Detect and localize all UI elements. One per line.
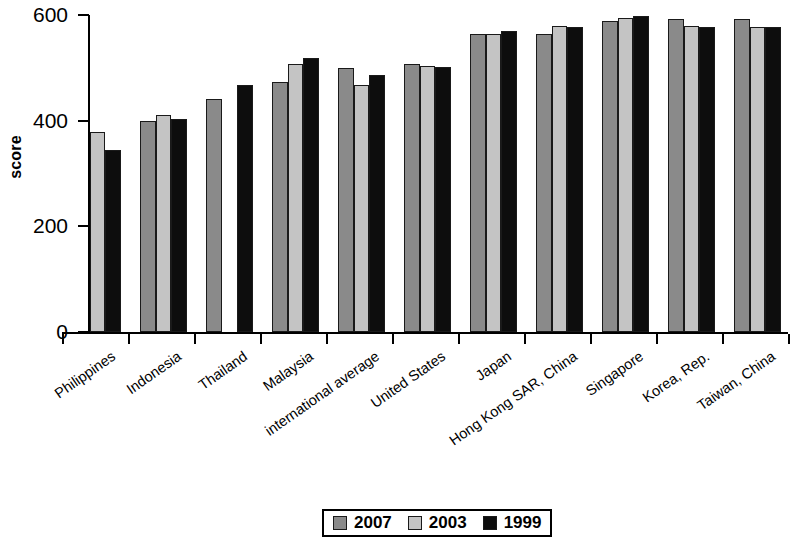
legend-label-2003: 2003 [429, 514, 467, 531]
bar-2003-philippines [90, 132, 106, 332]
bar-1999-indonesia [171, 119, 187, 332]
bar-1999-singapore [633, 16, 649, 332]
x-tick-mark [62, 334, 64, 344]
x-tick-mark [260, 334, 262, 344]
x-tick-mark [194, 334, 196, 344]
x-tick-mark [326, 334, 328, 344]
bar-1999-japan [501, 31, 517, 332]
bar-1999-malaysia [303, 58, 319, 332]
x-tick-mark [590, 334, 592, 344]
legend-swatch-2003 [408, 516, 422, 530]
legend-item-1999: 1999 [483, 514, 542, 531]
legend-swatch-2007 [333, 516, 347, 530]
plot-area [0, 0, 800, 334]
bar-1999-korea-rep [699, 27, 715, 332]
bar-1999-philippines [105, 150, 121, 332]
bar-2007-taiwan-china [734, 19, 750, 332]
bar-2003-japan [486, 34, 502, 333]
chart-legend: 200720031999 [322, 509, 552, 537]
bar-1999-thailand [237, 85, 253, 332]
bar-2007-thailand [206, 99, 222, 332]
x-tick-mark [656, 334, 658, 344]
bar-2007-international-average [338, 68, 354, 332]
x-axis-label-singapore: Singapore [391, 348, 646, 533]
legend-swatch-1999 [483, 516, 497, 530]
legend-item-2007: 2007 [333, 514, 392, 531]
bar-1999-hong-kong-sar-china [567, 27, 583, 332]
bar-1999-international-average [369, 75, 385, 332]
x-tick-mark [458, 334, 460, 344]
bar-2007-indonesia [140, 121, 156, 332]
bar-2003-korea-rep [684, 26, 700, 332]
bar-2007-japan [470, 34, 486, 333]
legend-label-1999: 1999 [504, 514, 542, 531]
bar-1999-taiwan-china [765, 27, 781, 332]
bar-chart: score 6004002000 PhilippinesIndonesiaTha… [0, 0, 800, 544]
bar-2003-international-average [354, 85, 370, 332]
bar-2007-malaysia [272, 82, 288, 332]
x-axis-label-taiwan-china: Taiwan, China [523, 348, 778, 533]
bar-2007-singapore [602, 21, 618, 332]
bar-2003-indonesia [156, 115, 172, 332]
bar-2007-united-states [404, 64, 420, 332]
bar-2003-taiwan-china [750, 27, 766, 332]
legend-item-2003: 2003 [408, 514, 467, 531]
bar-2003-malaysia [288, 64, 304, 332]
bar-2003-united-states [420, 66, 436, 332]
x-tick-mark [128, 334, 130, 344]
x-tick-mark [392, 334, 394, 344]
x-tick-mark [788, 334, 790, 344]
x-axis-line [62, 332, 788, 334]
bar-2007-korea-rep [668, 19, 684, 332]
x-tick-mark [722, 334, 724, 344]
x-axis-label-korea-rep: Korea, Rep. [457, 348, 712, 533]
x-tick-mark [524, 334, 526, 344]
bar-2003-singapore [618, 18, 634, 332]
legend-label-2007: 2007 [354, 514, 392, 531]
bar-1999-united-states [435, 67, 451, 332]
bar-2003-hong-kong-sar-china [552, 26, 568, 332]
bar-2007-hong-kong-sar-china [536, 34, 552, 333]
